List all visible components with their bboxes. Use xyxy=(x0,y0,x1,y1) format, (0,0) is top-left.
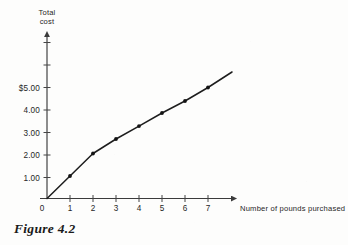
x-tick-label-4: 4 xyxy=(137,204,142,213)
data-point-5 xyxy=(160,111,164,115)
x-tick-label-7: 7 xyxy=(206,204,211,213)
y-tick-label-1: 1.00 xyxy=(23,174,40,183)
y-tick-label-2: 2.00 xyxy=(23,151,40,160)
y-tick-label-3: 3.00 xyxy=(23,129,40,138)
data-point-7 xyxy=(206,86,210,90)
x-tick-label-1: 1 xyxy=(68,204,73,213)
x-tick-label-6: 6 xyxy=(183,204,188,213)
y-tick-label-4: 4.00 xyxy=(23,106,40,115)
data-point-4 xyxy=(137,124,141,128)
data-point-3 xyxy=(114,137,118,141)
x-tick-label-5: 5 xyxy=(160,204,165,213)
origin-label: 0 xyxy=(40,204,45,213)
y-axis-title-line1: Total xyxy=(38,8,55,17)
y-axis-title-line2: cost xyxy=(40,17,55,26)
x-axis-title: Number of pounds purchased xyxy=(240,204,345,213)
data-point-2 xyxy=(91,152,95,156)
x-tick-label-2: 2 xyxy=(91,204,96,213)
data-point-1 xyxy=(68,174,72,178)
figure-container: $5.00 4.00 3.00 2.00 1.00 0 1 2 3 4 5 6 … xyxy=(0,0,348,245)
cost-curve xyxy=(47,72,232,199)
x-tick-label-3: 3 xyxy=(114,204,119,213)
y-tick-label-5: $5.00 xyxy=(19,84,41,93)
line-chart: $5.00 4.00 3.00 2.00 1.00 0 1 2 3 4 5 6 … xyxy=(0,0,348,245)
figure-caption: Figure 4.2 xyxy=(14,221,76,237)
data-point-6 xyxy=(183,99,187,103)
